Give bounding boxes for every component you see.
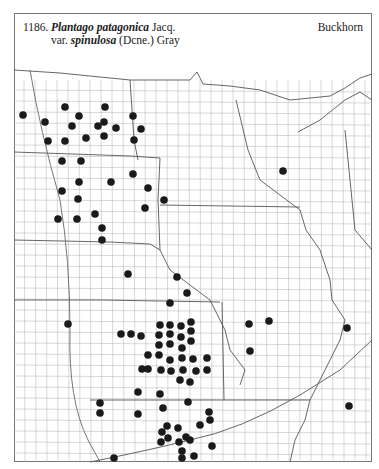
occurrence-dot xyxy=(96,409,104,417)
occurrence-dot xyxy=(96,399,104,407)
occurrence-dot xyxy=(156,321,164,329)
occurrence-dot xyxy=(54,215,62,223)
occurrence-dot xyxy=(94,122,102,130)
occurrence-dot xyxy=(75,178,83,186)
occurrence-dot xyxy=(41,118,49,126)
occurrence-dot xyxy=(61,103,69,111)
occurrence-dot xyxy=(19,111,27,119)
occurrence-dot xyxy=(127,330,135,338)
occurrence-dot xyxy=(183,289,191,297)
occurrence-dot xyxy=(159,404,167,412)
occurrence-dot xyxy=(156,390,164,398)
occurrence-dot xyxy=(166,330,174,338)
occurrence-dot xyxy=(174,424,182,432)
occurrence-dot xyxy=(101,103,109,111)
occurrence-dot xyxy=(110,454,118,462)
occurrence-dot xyxy=(265,317,273,325)
occurrence-dot xyxy=(130,136,138,144)
occurrence-dot xyxy=(58,187,66,195)
occurrence-dot xyxy=(134,388,142,396)
occurrence-dot xyxy=(166,356,174,364)
occurrence-dot xyxy=(177,322,185,330)
occurrence-dot xyxy=(98,236,106,244)
occurrence-dot xyxy=(137,125,145,133)
occurrence-dot xyxy=(205,408,213,416)
occurrence-dot xyxy=(175,438,183,446)
occurrence-dot xyxy=(155,331,163,339)
occurrence-dot xyxy=(124,270,132,278)
occurrence-dot xyxy=(187,327,195,335)
occurrence-dot xyxy=(343,324,351,332)
occurrence-dot xyxy=(137,332,145,340)
occurrence-dot xyxy=(77,157,85,165)
occurrence-dot xyxy=(91,210,99,218)
occurrence-dot xyxy=(82,134,90,142)
occurrence-dot xyxy=(245,320,253,328)
occurrence-dot xyxy=(178,447,186,455)
occurrence-dot xyxy=(160,196,168,204)
occurrence-dot xyxy=(206,416,214,424)
occurrence-dot xyxy=(144,351,152,359)
occurrence-dot xyxy=(345,402,353,410)
occurrence-dot xyxy=(163,422,171,430)
occurrence-dot xyxy=(178,354,186,362)
occurrence-dot xyxy=(144,184,152,192)
occurrence-dot xyxy=(187,337,195,345)
occurrence-dot xyxy=(166,299,174,307)
occurrence-dot xyxy=(134,410,142,418)
occurrence-dot xyxy=(64,320,72,328)
distribution-map xyxy=(0,0,379,469)
occurrence-dot xyxy=(164,434,172,442)
occurrence-dot xyxy=(141,204,149,212)
occurrence-dot xyxy=(157,366,165,374)
occurrence-dot xyxy=(98,224,106,232)
occurrence-dot xyxy=(155,351,163,359)
occurrence-dot xyxy=(100,132,108,140)
occurrence-dot xyxy=(166,321,174,329)
occurrence-dot xyxy=(74,195,82,203)
occurrence-dot xyxy=(179,366,187,374)
occurrence-dot xyxy=(75,112,83,120)
occurrence-dot xyxy=(203,366,211,374)
occurrence-dot xyxy=(44,137,52,145)
occurrence-dot xyxy=(166,340,174,348)
occurrence-dot xyxy=(73,215,81,223)
occurrence-dot xyxy=(68,122,76,130)
occurrence-dot xyxy=(112,124,120,132)
state-borders xyxy=(14,70,372,462)
occurrence-dot xyxy=(279,167,287,175)
occurrence-dot xyxy=(117,330,125,338)
occurrence-dot xyxy=(158,428,166,436)
occurrence-dot xyxy=(189,355,197,363)
occurrence-dot xyxy=(129,112,137,120)
occurrence-dot xyxy=(178,454,186,462)
occurrence-dot xyxy=(167,367,175,375)
occurrence-dot xyxy=(192,367,200,375)
occurrence-dot xyxy=(190,452,198,460)
occurrence-dot xyxy=(129,170,137,178)
occurrence-dot xyxy=(155,341,163,349)
occurrence-dot xyxy=(196,421,204,429)
occurrence-dot xyxy=(61,137,69,145)
occurrence-dot xyxy=(246,347,254,355)
occurrence-dot xyxy=(184,398,192,406)
occurrence-dot xyxy=(144,365,152,373)
occurrence-dot xyxy=(203,354,211,362)
occurrence-dot xyxy=(186,378,194,386)
occurrence-dot xyxy=(176,376,184,384)
occurrence-dot xyxy=(186,436,194,444)
occurrence-dot xyxy=(173,273,181,281)
occurrence-dot xyxy=(178,344,186,352)
occurrence-dot xyxy=(157,438,165,446)
occurrence-dot xyxy=(107,178,115,186)
occurrence-dot xyxy=(187,318,195,326)
occurrence-dot xyxy=(208,442,216,450)
occurrence-dot xyxy=(58,157,66,165)
occurrence-dot xyxy=(177,333,185,341)
